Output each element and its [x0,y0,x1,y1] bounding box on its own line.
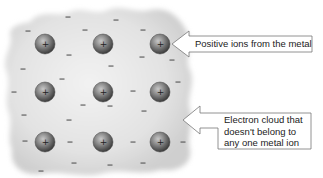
electron-minus [67,120,72,121]
electron-minus [108,165,113,166]
positive-ion: + [93,132,113,152]
electron-minus [181,142,186,143]
positive-ion: + [93,34,113,54]
plus-sign: + [42,137,50,147]
electron-minus [81,105,86,106]
positive-ion: + [35,34,55,54]
electron-minus [109,66,114,67]
electron-minus [26,31,31,32]
plus-sign: + [157,39,165,49]
electron-minus [68,142,73,143]
electron-minus [66,17,71,18]
callout-line-2: doesn't belong to [224,126,303,138]
electron-minus [141,163,146,164]
plus-sign: + [42,39,50,49]
electron-minus [21,69,26,70]
electron-minus [131,142,136,143]
electron-minus [114,20,119,21]
electron-minus [176,82,181,83]
positive-ion: + [150,132,170,152]
positive-ion: + [35,82,55,102]
positive-ion: + [35,132,55,152]
plus-sign: + [100,87,108,97]
callout-line-3: any one metal ion [224,137,303,149]
callout-line-1: Electron cloud that [224,114,303,126]
electron-minus [170,60,175,61]
callout-label-cloud: Electron cloud that doesn't belong to an… [224,114,303,149]
plus-sign: + [100,137,108,147]
electron-minus [39,171,44,172]
electron-minus [83,30,88,31]
plus-sign: + [157,87,165,97]
plus-sign: + [42,87,50,97]
plus-sign: + [157,137,165,147]
electron-minus [108,106,113,107]
callout-label-ions: Positive ions from the metal [195,38,312,50]
electron-minus [12,92,17,93]
plus-sign: + [100,39,108,49]
electron-minus [142,111,147,112]
electron-minus [60,79,65,80]
positive-ion: + [93,82,113,102]
electron-minus [67,55,72,56]
electron-minus [23,141,28,142]
electron-minus [131,91,136,92]
electron-minus [141,30,146,31]
electron-minus [140,57,145,58]
electron-minus [72,163,77,164]
metallic-bonding-diagram: +++++++++ [0,0,323,178]
positive-ion: + [150,34,170,54]
positive-ion: + [150,82,170,102]
electron-minus [22,115,27,116]
